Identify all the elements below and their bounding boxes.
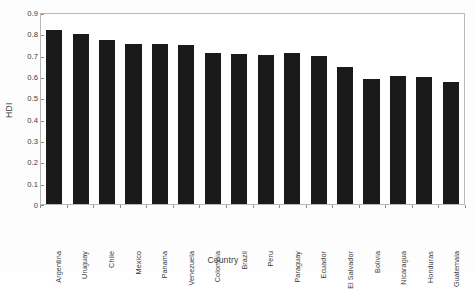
bar-slot: [332, 14, 358, 204]
y-axis-tick-label: 0.3: [27, 137, 38, 146]
x-axis-tick-mark: [253, 205, 254, 208]
x-label-slot: Nicaragua: [385, 209, 412, 253]
bar[interactable]: [443, 82, 459, 204]
y-axis-tick-label: 0.5: [27, 94, 38, 103]
y-axis-tick-label: 0.9: [27, 9, 38, 18]
x-label-slot: Chile: [93, 209, 120, 253]
bar[interactable]: [363, 79, 379, 204]
bar[interactable]: [73, 34, 89, 204]
bar-slot: [358, 14, 384, 204]
bar-slot: [67, 14, 93, 204]
bar-slot: [147, 14, 173, 204]
y-axis-tick-mark: [41, 99, 44, 100]
x-label-slot: Bolivia: [359, 209, 386, 253]
y-axis-tick-mark: [41, 142, 44, 143]
y-axis-tick-mark: [41, 185, 44, 186]
x-label-slot: Paraguay: [279, 209, 306, 253]
y-axis-tick-label: 0.8: [27, 30, 38, 39]
bar[interactable]: [152, 44, 168, 204]
x-axis-tick-mark: [199, 205, 200, 208]
x-axis-tick-mark: [359, 205, 360, 208]
y-axis-tick-mark: [41, 78, 44, 79]
bar-slot: [279, 14, 305, 204]
x-axis-tick-mark: [465, 205, 466, 208]
x-label-slot: Guatemala: [438, 209, 465, 253]
y-axis-tick-label: 0.7: [27, 51, 38, 60]
y-axis-tick-labels: 0.90.80.70.60.50.40.30.20.10: [18, 13, 38, 205]
bar-slot: [411, 14, 437, 204]
bar[interactable]: [99, 40, 115, 204]
bar-slot: [173, 14, 199, 204]
y-axis-tick-label: 0.6: [27, 73, 38, 82]
x-axis-tick-mark: [438, 205, 439, 208]
x-axis-tick-mark: [385, 205, 386, 208]
bar[interactable]: [284, 53, 300, 204]
plot-inner: [41, 14, 464, 204]
bar[interactable]: [231, 54, 247, 204]
x-axis-title-text: Country: [207, 255, 238, 265]
x-axis-tick-mark: [93, 205, 94, 208]
x-label-slot: Honduras: [412, 209, 439, 253]
x-axis-tick-mark: [146, 205, 147, 208]
bar[interactable]: [337, 67, 353, 204]
bar-slot: [120, 14, 146, 204]
bar[interactable]: [125, 44, 141, 204]
y-axis-tick-mark: [41, 163, 44, 164]
x-label-slot: Uruguay: [67, 209, 94, 253]
plot-area: [40, 13, 465, 205]
bar-slot: [385, 14, 411, 204]
x-label-slot: Colombia: [199, 209, 226, 253]
bar-slot: [305, 14, 331, 204]
x-axis-tick-mark: [226, 205, 227, 208]
x-label-slot: Argentina: [40, 209, 67, 253]
x-axis-tick-mark: [412, 205, 413, 208]
x-axis-category-labels: ArgentinaUruguayChileMexicoPanamaVenezue…: [40, 209, 465, 253]
x-axis-tick-mark: [67, 205, 68, 208]
x-label-slot: El Salvador: [332, 209, 359, 253]
x-axis-tick-mark: [40, 205, 41, 208]
bar[interactable]: [205, 53, 221, 204]
y-axis-tick-label: 0: [34, 201, 38, 210]
y-axis-title-text: HDI: [4, 102, 14, 118]
bar[interactable]: [311, 56, 327, 204]
x-axis-tick-mark: [279, 205, 280, 208]
bar-slot: [253, 14, 279, 204]
x-label-slot: Venezuela: [173, 209, 200, 253]
x-label-slot: Ecuador: [306, 209, 333, 253]
bar[interactable]: [178, 45, 194, 204]
y-axis-tick-mark: [41, 14, 44, 15]
bar-series: [41, 14, 464, 204]
x-axis-tick-mark: [120, 205, 121, 208]
bar-slot: [200, 14, 226, 204]
x-label-slot: Brazil: [226, 209, 253, 253]
bar-slot: [94, 14, 120, 204]
x-axis-title: Country: [0, 255, 474, 265]
y-axis-tick-label: 0.2: [27, 158, 38, 167]
bar[interactable]: [390, 76, 406, 204]
bar[interactable]: [416, 77, 432, 204]
bar[interactable]: [258, 55, 274, 204]
x-axis-tick-mark: [332, 205, 333, 208]
bar-slot: [226, 14, 252, 204]
y-axis-tick-label: 0.4: [27, 115, 38, 124]
bar-slot: [41, 14, 67, 204]
y-axis-tick-label: 0.1: [27, 179, 38, 188]
x-label-slot: Panama: [146, 209, 173, 253]
y-axis-tick-mark: [41, 57, 44, 58]
x-label-slot: Mexico: [120, 209, 147, 253]
y-axis-tick-mark: [41, 35, 44, 36]
bar[interactable]: [46, 30, 62, 204]
x-axis-tick-mark: [306, 205, 307, 208]
bar-slot: [438, 14, 464, 204]
x-label-slot: Peru: [253, 209, 280, 253]
x-axis-tick-mark: [173, 205, 174, 208]
y-axis-tick-mark: [41, 121, 44, 122]
